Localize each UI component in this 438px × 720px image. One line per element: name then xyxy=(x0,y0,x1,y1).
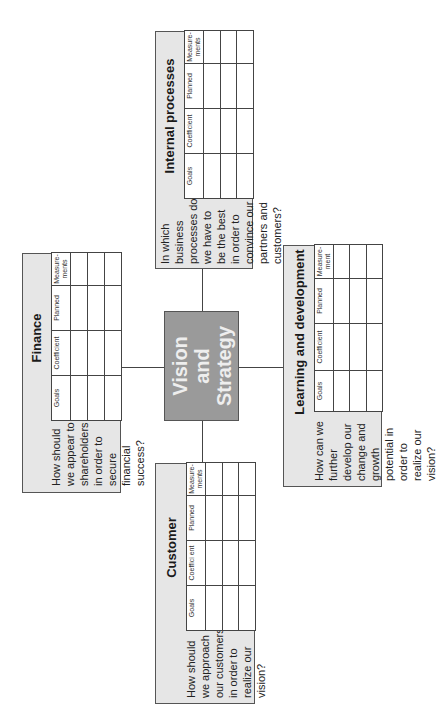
cell[interactable] xyxy=(366,371,382,412)
finance-col-coefficient: Coefficient xyxy=(52,331,71,376)
finance-row xyxy=(105,253,122,421)
vision-line-1: Vision xyxy=(169,311,191,421)
cell[interactable] xyxy=(204,31,221,64)
internal-title: Internal processes xyxy=(162,32,177,200)
learning-row xyxy=(334,245,350,412)
finance-table: Goals Coefficient Planned Measure-ments xyxy=(51,252,122,421)
cell[interactable] xyxy=(206,541,223,586)
cell[interactable] xyxy=(105,286,122,331)
cell[interactable] xyxy=(105,253,122,286)
finance-col-planned: Planned xyxy=(52,286,71,331)
customer-table: Goals Coeffici ent Planned Measure-ments xyxy=(186,462,256,631)
cell[interactable] xyxy=(334,371,350,412)
customer-col-coefficient: Coeffici ent xyxy=(187,541,206,586)
learning-question: How can we further develop our change an… xyxy=(312,411,438,481)
cell[interactable] xyxy=(105,376,122,421)
cell[interactable] xyxy=(220,64,237,109)
vision-line-2: and xyxy=(191,311,213,421)
learning-col-coefficient: Coefficient xyxy=(315,324,334,371)
cell[interactable] xyxy=(222,586,239,631)
cell[interactable] xyxy=(204,154,221,199)
cell[interactable] xyxy=(88,331,105,376)
cell[interactable] xyxy=(239,586,256,631)
internal-row xyxy=(204,31,221,199)
cell[interactable] xyxy=(334,279,350,324)
finance-col-goals: Goals xyxy=(52,376,71,421)
connector-customer xyxy=(202,421,203,463)
internal-row xyxy=(220,31,237,199)
customer-question: How should we approach our customers in … xyxy=(184,628,268,698)
cell[interactable] xyxy=(71,331,88,376)
panel-customer: Customer How should we approach our cust… xyxy=(155,463,255,704)
internal-col-planned: Planned xyxy=(185,64,204,109)
cell[interactable] xyxy=(350,371,366,412)
cell[interactable] xyxy=(222,496,239,541)
internal-table: Goals Coefficient Planned Measure-ments xyxy=(184,30,254,199)
cell[interactable] xyxy=(71,253,88,286)
customer-title: Customer xyxy=(164,464,179,631)
cell[interactable] xyxy=(204,109,221,154)
finance-row xyxy=(71,253,88,421)
learning-col-planned: Planned xyxy=(315,279,334,324)
cell[interactable] xyxy=(334,324,350,371)
learning-row xyxy=(350,245,366,412)
cell[interactable] xyxy=(237,31,254,64)
cell[interactable] xyxy=(239,463,256,496)
cell[interactable] xyxy=(366,279,382,324)
learning-title: Learning and development xyxy=(292,246,307,418)
customer-row xyxy=(206,463,223,631)
cell[interactable] xyxy=(206,586,223,631)
panel-learning-development: Learning and development How can we furt… xyxy=(283,245,382,487)
cell[interactable] xyxy=(334,245,350,279)
cell[interactable] xyxy=(204,64,221,109)
cell[interactable] xyxy=(366,324,382,371)
vision-strategy-box: Vision and Strategy xyxy=(164,311,239,421)
cell[interactable] xyxy=(88,253,105,286)
finance-question: How should we appear to shareholders in … xyxy=(49,422,147,486)
cell[interactable] xyxy=(237,154,254,199)
cell[interactable] xyxy=(350,324,366,371)
connector-internal xyxy=(202,269,203,311)
learning-col-measurement: Measure-ment xyxy=(315,245,334,279)
cell[interactable] xyxy=(71,286,88,331)
cell[interactable] xyxy=(88,286,105,331)
internal-col-coefficient: Coefficient xyxy=(185,109,204,154)
cell[interactable] xyxy=(350,279,366,324)
internal-col-measurements: Measure-ments xyxy=(185,31,204,64)
internal-question: In which business processes do we have t… xyxy=(158,198,284,264)
learning-row xyxy=(366,245,382,412)
internal-col-goals: Goals xyxy=(185,154,204,199)
connector-finance xyxy=(121,367,164,368)
cell[interactable] xyxy=(206,463,223,496)
cell[interactable] xyxy=(237,109,254,154)
finance-title: Finance xyxy=(29,254,44,422)
cell[interactable] xyxy=(88,376,105,421)
cell[interactable] xyxy=(220,109,237,154)
cell[interactable] xyxy=(350,245,366,279)
cell[interactable] xyxy=(239,541,256,586)
panel-internal-processes: Internal processes In which business pro… xyxy=(155,31,253,269)
internal-row xyxy=(237,31,254,199)
cell[interactable] xyxy=(222,541,239,586)
cell[interactable] xyxy=(366,245,382,279)
customer-row xyxy=(239,463,256,631)
cell[interactable] xyxy=(222,463,239,496)
cell[interactable] xyxy=(71,376,88,421)
vision-strategy-label: Vision and Strategy xyxy=(169,311,235,421)
connector-learning xyxy=(239,367,283,368)
panel-finance: Finance How should we appear to sharehol… xyxy=(22,253,121,493)
customer-col-measurements: Measure-ments xyxy=(187,463,206,496)
vision-line-3: Strategy xyxy=(213,311,235,421)
finance-col-measurements: Measure-ments xyxy=(52,253,71,286)
cell[interactable] xyxy=(239,496,256,541)
finance-row xyxy=(88,253,105,421)
cell[interactable] xyxy=(105,331,122,376)
cell[interactable] xyxy=(237,64,254,109)
learning-table: Goals Coefficient Planned Measure-ment xyxy=(314,244,383,412)
cell[interactable] xyxy=(220,31,237,64)
learning-col-goals: Goals xyxy=(315,371,334,412)
customer-col-planned: Planned xyxy=(187,496,206,541)
customer-col-goals: Goals xyxy=(187,586,206,631)
cell[interactable] xyxy=(220,154,237,199)
cell[interactable] xyxy=(206,496,223,541)
